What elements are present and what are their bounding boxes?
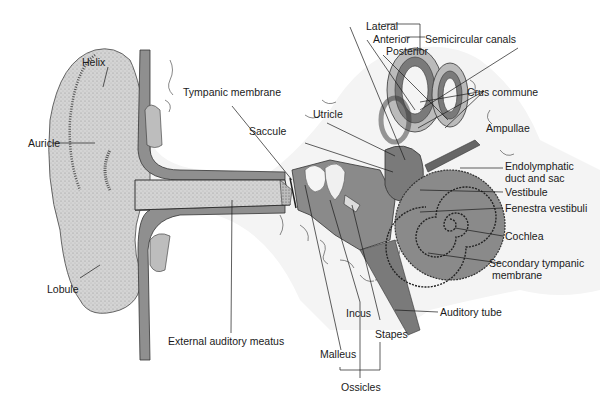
upper-cartilage [145,105,162,148]
label-external-auditory-meatus: External auditory meatus [168,335,284,347]
label-secondary-tympanic-line2: membrane [492,269,542,281]
label-vestibule: Vestibule [505,186,548,198]
label-secondary-tympanic-line1: Secondary tympanic [489,257,584,269]
label-auricle: Auricle [28,137,60,149]
label-posterior: Posterior [386,45,428,57]
label-endolymphatic-line1: Endolymphatic [505,160,574,172]
label-ampullae: Ampullae [486,122,530,134]
label-lateral: Lateral [366,20,398,32]
label-malleus: Malleus [320,348,356,360]
label-anterior: Anterior [373,33,410,45]
label-endolymphatic-line2: duct and sac [505,172,565,184]
ear-anatomy-diagram: Lateral Anterior Posterior Semicircular … [0,0,614,411]
label-auditory-tube: Auditory tube [440,306,502,318]
external-auditory-canal [135,180,290,210]
label-ossicles: Ossicles [341,381,381,393]
label-crus-commune: Crus commune [467,86,538,98]
label-semicircular-canals: Semicircular canals [425,33,516,45]
label-cochlea: Cochlea [505,230,544,242]
label-lobule: Lobule [47,283,79,295]
label-tympanic-membrane: Tympanic membrane [183,86,281,98]
label-stapes: Stapes [375,328,408,340]
label-helix: Helix [82,56,105,68]
label-saccule: Saccule [249,125,286,137]
label-fenestra-vestibuli: Fenestra vestibuli [505,202,587,214]
label-incus: Incus [346,307,371,319]
label-utricle: Utricle [313,108,343,120]
lower-cartilage [150,234,170,272]
